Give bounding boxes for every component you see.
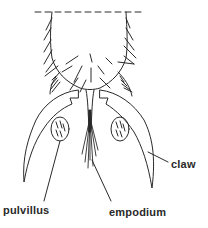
pretarsus-drawing <box>0 0 208 228</box>
empodium-bristles <box>82 110 98 168</box>
claw-leader-line <box>148 152 168 162</box>
left-claw <box>24 90 78 182</box>
empodium-leader-line <box>92 160 111 201</box>
pulvillus-leader-line <box>44 141 60 201</box>
pretarsus-diagram: claw pulvillus empodium <box>0 0 208 228</box>
claw-label: claw <box>171 158 196 170</box>
inner-setae <box>62 54 112 92</box>
tarsal-segment-outline <box>51 12 128 90</box>
left-lateral-lobe <box>50 72 60 94</box>
pulvillus-label: pulvillus <box>3 204 49 216</box>
right-claw <box>100 90 154 188</box>
empodium-label: empodium <box>109 206 166 218</box>
right-pulvillus <box>111 117 129 141</box>
right-lateral-lobe <box>118 72 132 96</box>
left-pulvillus <box>51 117 69 141</box>
